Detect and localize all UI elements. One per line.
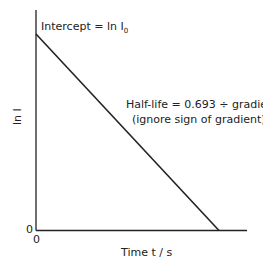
y-axis-label: ln I xyxy=(12,108,23,125)
gradient-note-annotation: (ignore sign of gradient) xyxy=(132,114,263,125)
intercept-annotation: Intercept = ln I0 xyxy=(41,21,128,35)
y-origin-label: 0 xyxy=(26,224,33,235)
half-life-annotation: Half-life = 0.693 ÷ gradient xyxy=(126,99,263,110)
data-line xyxy=(36,34,219,231)
x-origin-label: 0 xyxy=(33,234,40,245)
x-axis-label: Time t / s xyxy=(121,247,172,258)
